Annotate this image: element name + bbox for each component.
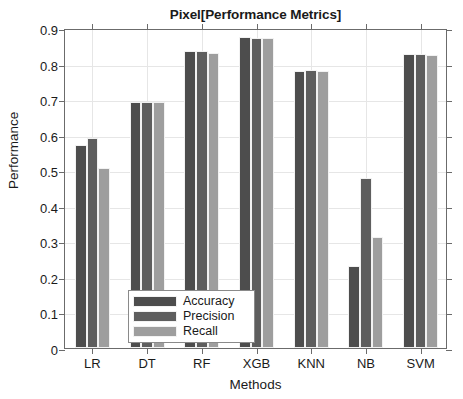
y-axis-tick-right <box>446 208 452 209</box>
y-axis-title: Performance <box>6 112 21 189</box>
x-axis-tick <box>147 348 148 354</box>
y-axis-tick-right <box>446 314 452 315</box>
legend-label: Recall <box>183 325 218 338</box>
y-axis-tick-label: 0.3 <box>40 236 58 251</box>
y-axis-tick-label: 0.6 <box>40 129 58 144</box>
x-axis-tick-label: XGB <box>243 356 270 371</box>
y-axis-tick <box>59 350 65 351</box>
y-axis-tick-right <box>446 101 452 102</box>
y-axis-tick-right <box>446 279 452 280</box>
chart-title: Pixel[Performance Metrics] <box>64 7 447 22</box>
legend-swatch-recall <box>133 326 177 337</box>
y-axis-tick-label: 0.5 <box>40 165 58 180</box>
y-axis-tick-label: 0.4 <box>40 200 58 215</box>
x-axis-tick <box>421 348 422 354</box>
bar-nb-accuracy <box>348 266 360 348</box>
y-axis-tick-right <box>446 30 452 31</box>
x-axis-tick-label: RF <box>193 356 210 371</box>
y-axis-tick-right <box>446 66 452 67</box>
y-axis-tick-right <box>446 172 452 173</box>
x-axis-tick-label: KNN <box>297 356 324 371</box>
plot-area: 00.10.20.30.40.50.60.70.80.9LRDTRFXGBKNN… <box>64 29 447 349</box>
bar-lr-recall <box>98 168 110 348</box>
x-axis-tick-label: DT <box>138 356 155 371</box>
x-axis-tick <box>366 348 367 354</box>
y-axis-tick-label: 0 <box>51 343 58 358</box>
legend-item[interactable]: Accuracy <box>133 294 250 309</box>
y-axis-tick-label: 0.2 <box>40 271 58 286</box>
legend-label: Accuracy <box>183 295 234 308</box>
bar-lr-accuracy <box>75 145 87 348</box>
bar-knn-recall <box>317 71 329 348</box>
y-axis-tick-right <box>446 137 452 138</box>
y-axis-tick-label: 0.1 <box>40 307 58 322</box>
bar-nb-precision <box>360 178 372 348</box>
legend-label: Precision <box>183 310 234 323</box>
y-axis-tick-label: 0.7 <box>40 94 58 109</box>
bar-svm-accuracy <box>403 54 415 348</box>
bar-nb-recall <box>372 237 384 348</box>
y-axis-tick-label: 0.8 <box>40 58 58 73</box>
bar-xgb-recall <box>262 38 274 348</box>
x-axis-tick <box>311 348 312 354</box>
x-axis-tick-label: SVM <box>407 356 435 371</box>
bar-knn-precision <box>305 70 317 348</box>
chart-figure: Pixel[Performance Metrics] Performance M… <box>0 0 463 399</box>
x-axis-tick <box>92 348 93 354</box>
x-axis-tick-label: LR <box>84 356 101 371</box>
legend-swatch-precision <box>133 311 177 322</box>
legend-item[interactable]: Precision <box>133 309 250 324</box>
x-axis-tick-label: NB <box>357 356 375 371</box>
bar-lr-precision <box>87 138 99 348</box>
bar-knn-accuracy <box>294 71 306 348</box>
bar-layer <box>65 30 446 348</box>
y-axis-tick-right <box>446 350 452 351</box>
chart-legend[interactable]: AccuracyPrecisionRecall <box>128 290 255 343</box>
legend-swatch-accuracy <box>133 296 177 307</box>
bar-svm-recall <box>426 55 438 348</box>
y-axis-tick-label: 0.9 <box>40 23 58 38</box>
x-axis-tick <box>202 348 203 354</box>
x-axis-tick <box>257 348 258 354</box>
legend-item[interactable]: Recall <box>133 324 250 339</box>
y-axis-tick-right <box>446 243 452 244</box>
bar-svm-precision <box>415 54 427 348</box>
x-axis-title: Methods <box>64 377 447 392</box>
